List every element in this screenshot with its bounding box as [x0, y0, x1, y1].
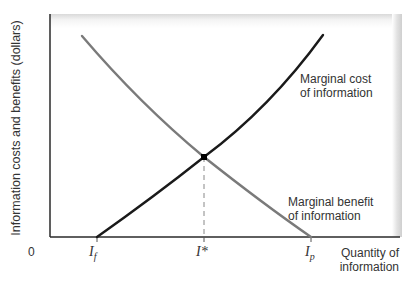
- origin-label: 0: [28, 245, 35, 259]
- tick-istar-text: I*: [196, 244, 208, 259]
- marginal-cost-label: Marginal cost of information: [300, 72, 373, 100]
- tick-label-ip: Ip: [305, 244, 315, 262]
- marginal-benefit-label-line1: Marginal benefit: [288, 195, 373, 209]
- marginal-benefit-curve: [82, 36, 311, 237]
- equilibrium-point: [201, 154, 207, 160]
- marginal-benefit-label-line2: of information: [288, 209, 373, 223]
- tick-if-sub: f: [94, 251, 97, 262]
- y-axis-label: Information costs and benefits (dollars): [9, 3, 25, 253]
- x-axis-label-line1: Quantity of: [335, 246, 399, 260]
- marginal-benefit-label: Marginal benefit of information: [288, 195, 373, 223]
- tick-ip-sub: p: [310, 251, 315, 262]
- x-axis-label-line2: information: [335, 260, 399, 274]
- marginal-cost-label-line2: of information: [300, 86, 373, 100]
- tick-label-istar: I*: [196, 244, 208, 260]
- marginal-cost-label-line1: Marginal cost: [300, 72, 373, 86]
- tick-label-if: If: [89, 244, 96, 262]
- x-axis-label: Quantity of information: [335, 246, 399, 274]
